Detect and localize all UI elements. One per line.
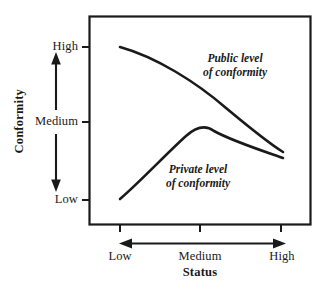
series-annotation-private: Private level of conformity	[144, 162, 252, 190]
series-annotation-private-line2: of conformity	[144, 176, 252, 190]
series-annotation-public-line2: of conformity	[181, 65, 289, 79]
x-tick-label-medium: Medium	[167, 250, 233, 263]
x-axis-title: Status	[167, 266, 233, 279]
x-axis-direction-arrow	[119, 238, 286, 248]
y-axis-title: Conformity	[13, 79, 26, 163]
y-tick-label-low: Low	[20, 193, 78, 206]
conformity-status-chart: High Medium Low Conformity Low Medium Hi…	[0, 0, 329, 291]
series-annotation-public: Public level of conformity	[181, 51, 289, 79]
y-tick-label-high: High	[20, 40, 78, 53]
series-annotation-public-line1: Public level	[181, 51, 289, 65]
series-annotation-private-line1: Private level	[144, 162, 252, 176]
x-tick-label-high: High	[254, 250, 310, 263]
x-tick-label-low: Low	[92, 250, 148, 263]
